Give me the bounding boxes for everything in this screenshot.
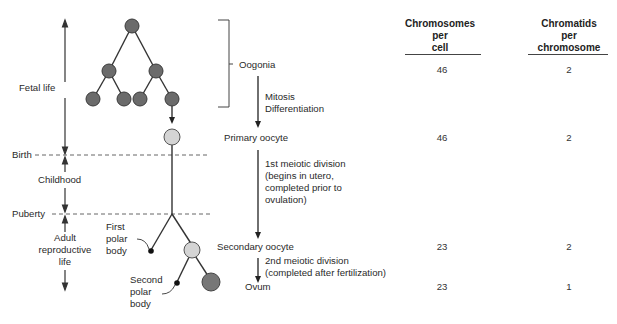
oogonia-chromosomes: 46	[427, 64, 457, 76]
stage-label-adult-reproductive-life: Adult reproductive life	[34, 232, 96, 268]
first-polar-body-label: First polar body	[106, 221, 127, 257]
oogonia-chromatids: 2	[554, 64, 584, 76]
marker-puberty: Puberty	[12, 208, 47, 220]
stage-label-childhood: Childhood	[38, 174, 81, 186]
header-underline-chromosomes	[405, 54, 481, 55]
oogonia-cells	[86, 19, 179, 106]
header-chromosomes-per-cell: Chromosomes per cell	[400, 18, 480, 54]
secondary-oocyte-chromosomes: 23	[427, 241, 457, 253]
ovum-cell	[202, 273, 220, 291]
stage-primary-oocyte: Primary oocyte	[224, 132, 288, 144]
transition-first-meiotic-division: 1st meiotic division (begins in utero, c…	[265, 158, 346, 206]
ovum-chromosomes: 23	[427, 281, 457, 293]
marker-birth: Birth	[12, 149, 33, 161]
first-polar-body-cell	[148, 248, 154, 254]
primary-oocyte-cell	[164, 129, 180, 145]
primary-oocyte-chromatids: 2	[554, 132, 584, 144]
transition-second-meiotic-division: 2nd meiotic division (completed after fe…	[265, 255, 386, 279]
primary-oocyte-chromosomes: 46	[427, 132, 457, 144]
stage-secondary-oocyte: Secondary oocyte	[217, 241, 294, 253]
second-polar-body-cell	[174, 280, 180, 286]
arrow-to-primary-oocyte	[169, 117, 175, 124]
stage-ovum: Ovum	[245, 281, 271, 293]
second-polar-body-label: Second polar body	[130, 274, 163, 310]
oogonia-bracket	[218, 20, 233, 107]
ovum-chromatids: 1	[554, 281, 584, 293]
stage-label-fetal-life: Fetal life	[19, 82, 55, 94]
stage-oogonia: Oogonia	[239, 59, 275, 71]
header-underline-chromatids	[528, 54, 608, 55]
transition-mitosis-differentiation: Mitosis Differentiation	[265, 91, 324, 115]
secondary-oocyte-cell	[184, 242, 200, 258]
header-chromatids-per-chromosome: Chromatids per chromosome	[527, 18, 611, 54]
secondary-oocyte-chromatids: 2	[554, 241, 584, 253]
